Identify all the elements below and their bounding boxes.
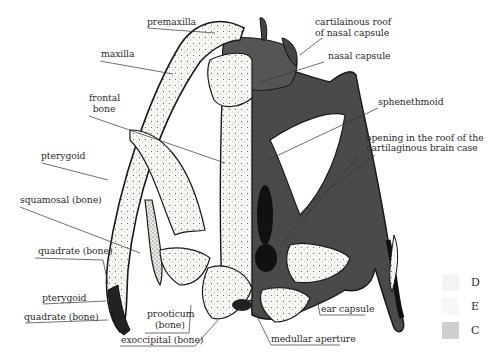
label-premaxilla: premaxilla <box>147 17 196 27</box>
label-quadrate-upper: quadrate (bone) <box>38 246 112 256</box>
bone-left-half <box>107 22 253 335</box>
legend-item-e: E <box>442 298 479 315</box>
legend-label-d: D <box>471 276 480 289</box>
legend-label-c: C <box>471 324 479 337</box>
label-prooticum-line2: (bone) <box>155 320 185 330</box>
legend-item-d: D <box>442 274 480 291</box>
legend-label-e: E <box>471 300 479 313</box>
legend-swatch-c <box>442 322 459 339</box>
label-opening-line2: cartilaginous brain case <box>366 143 478 153</box>
label-maxilla: maxilla <box>101 49 134 59</box>
label-nasal-capsule: nasal capsule <box>328 51 390 61</box>
legend-swatch-d <box>442 274 459 291</box>
label-exoccipital: exoccipital (bone) <box>121 335 203 345</box>
skull-diagram: premaxilla maxilla frontal bone pterygoi… <box>0 0 491 362</box>
label-medullar-aperture: medullar aperture <box>271 334 356 344</box>
legend-item-c: C <box>442 322 479 339</box>
label-squamosal: squamosal (bone) <box>20 195 102 205</box>
label-pterygoid-upper: pterygoid <box>41 151 85 161</box>
skull-illustration <box>0 0 491 362</box>
legend-swatch-e <box>442 298 459 315</box>
label-frontal-bone-line2: bone <box>89 104 119 114</box>
label-sphenethmoid: sphenethmoid <box>378 97 444 107</box>
label-prooticum-line1: prooticum <box>147 309 194 319</box>
label-ear-capsule: ear capsule <box>321 304 374 314</box>
label-quadrate-lower: quadrate (bone) <box>24 312 98 322</box>
label-frontal-bone-line1: frontal <box>89 93 119 103</box>
label-pterygoid-lower: pterygoid <box>42 293 86 303</box>
label-cartilaginous-roof-line2: of nasal capsule <box>315 28 387 38</box>
label-cartilaginous-roof-line1: cartilainous roof <box>315 17 387 27</box>
